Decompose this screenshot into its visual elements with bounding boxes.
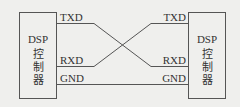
left-qi-label: 器 [33,74,44,87]
right-zhi-label: 制 [202,61,213,74]
right-gnd-label: GND [162,72,186,84]
right-dsp-label: DSP [197,33,217,45]
left-txd-label: TXD [60,11,83,23]
right-kong-label: 控 [202,47,213,61]
right-rxd-label: RXD [163,54,186,66]
left-dsp-controller: DSP 控 制 器 [20,13,57,99]
left-kong-label: 控 [33,47,44,61]
left-rxd-label: RXD [60,54,83,66]
right-txd-label: TXD [163,11,186,23]
uart-crossover-diagram: DSP 控 制 器 DSP 控 制 器 TXD RXD GND TXD RXD … [0,0,240,107]
right-qi-label: 器 [202,74,213,87]
right-dsp-controller: DSP 控 制 器 [189,13,226,99]
left-zhi-label: 制 [33,61,44,74]
left-dsp-label: DSP [28,33,48,45]
left-gnd-label: GND [60,72,84,84]
